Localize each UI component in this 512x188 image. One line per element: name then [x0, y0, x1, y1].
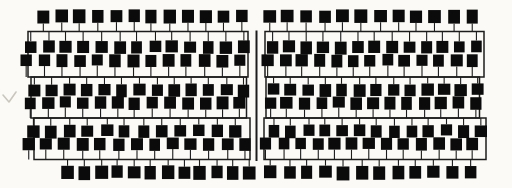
memory-cell — [127, 55, 139, 68]
memory-cell — [58, 138, 70, 150]
memory-cell — [470, 97, 481, 110]
memory-cell — [317, 97, 328, 109]
memory-cell — [95, 166, 108, 179]
memory-cell — [163, 54, 175, 67]
memory-cell — [42, 97, 54, 109]
memory-cell — [267, 41, 278, 54]
memory-cell — [427, 166, 439, 178]
memory-cell — [222, 138, 234, 150]
memory-cell — [368, 41, 380, 53]
memory-cell — [111, 10, 123, 22]
core-array-diagram — [0, 0, 512, 188]
memory-cell — [111, 165, 122, 177]
memory-cell — [301, 166, 312, 179]
memory-cell — [314, 54, 325, 67]
memory-cell — [77, 41, 89, 53]
memory-cell — [92, 10, 103, 23]
memory-cell — [446, 166, 458, 179]
memory-cell — [193, 125, 204, 136]
memory-cell — [367, 97, 379, 109]
memory-cell — [467, 10, 478, 24]
memory-cell — [384, 97, 395, 110]
memory-cell — [149, 139, 160, 151]
memory-cell — [319, 166, 332, 178]
memory-cell — [109, 54, 120, 67]
memory-cell — [475, 125, 487, 137]
memory-cell — [112, 96, 124, 108]
memory-cell — [203, 138, 214, 151]
memory-cell — [145, 166, 156, 179]
memory-cell — [335, 42, 347, 55]
memory-cell — [398, 138, 409, 149]
memory-cell — [238, 85, 249, 98]
memory-cell — [331, 55, 342, 68]
memory-cell — [320, 84, 332, 97]
memory-cell — [348, 55, 359, 67]
memory-cell — [236, 10, 248, 22]
memory-cell — [45, 126, 57, 139]
memory-cell — [436, 41, 448, 53]
memory-cell — [371, 125, 382, 137]
memory-cell — [268, 83, 280, 94]
memory-cell — [393, 166, 405, 180]
memory-cell — [441, 124, 452, 135]
memory-cell — [260, 138, 271, 150]
memory-cell — [77, 98, 89, 109]
memory-cell — [313, 138, 324, 150]
memory-cell — [73, 9, 86, 23]
memory-cell — [193, 166, 205, 180]
memory-cell — [185, 84, 196, 97]
memory-cell — [61, 166, 74, 179]
memory-cell — [56, 54, 67, 67]
memory-cell — [364, 55, 375, 67]
memory-cell — [162, 165, 174, 179]
memory-cell — [333, 97, 345, 108]
memory-cell — [180, 54, 191, 67]
memory-cell — [265, 98, 276, 109]
memory-cell — [328, 138, 340, 150]
memory-cell — [398, 55, 410, 67]
memory-cell — [133, 84, 145, 96]
memory-cell — [81, 126, 93, 137]
memory-cell — [129, 9, 140, 22]
memory-cell — [152, 84, 163, 95]
memory-cell — [167, 138, 179, 150]
memory-cell — [453, 96, 465, 108]
memory-cell — [179, 167, 191, 179]
memory-cell — [451, 54, 463, 66]
memory-cell — [300, 41, 311, 54]
memory-cell — [131, 138, 143, 150]
memory-cell — [164, 97, 176, 109]
memory-cell — [346, 137, 358, 149]
memory-cell — [243, 166, 256, 179]
memory-cell — [165, 40, 177, 52]
memory-cell — [467, 54, 478, 67]
memory-cell — [212, 125, 223, 137]
memory-cell — [64, 84, 76, 96]
memory-cell — [211, 166, 222, 178]
memory-cell — [421, 41, 432, 53]
memory-cell — [435, 97, 447, 109]
memory-cell — [421, 83, 433, 95]
memory-cell — [227, 166, 238, 180]
memory-cell — [280, 54, 292, 66]
memory-cell — [119, 125, 130, 137]
memory-cell — [263, 10, 276, 22]
memory-cell — [203, 41, 214, 54]
memory-cell — [280, 97, 292, 109]
memory-cell — [233, 97, 245, 109]
pencil-mark — [3, 92, 16, 102]
memory-cell — [374, 10, 387, 22]
memory-cell — [96, 41, 108, 53]
memory-cell — [422, 125, 433, 137]
memory-cell — [147, 97, 158, 109]
memory-cell — [184, 42, 196, 53]
memory-cell — [131, 41, 142, 53]
memory-cell — [98, 84, 110, 95]
memory-cell — [404, 42, 416, 53]
memory-cell — [221, 84, 233, 95]
memory-cell — [114, 41, 126, 54]
memory-cell — [471, 41, 482, 53]
memory-cell — [218, 11, 230, 23]
memory-cell — [454, 84, 466, 96]
